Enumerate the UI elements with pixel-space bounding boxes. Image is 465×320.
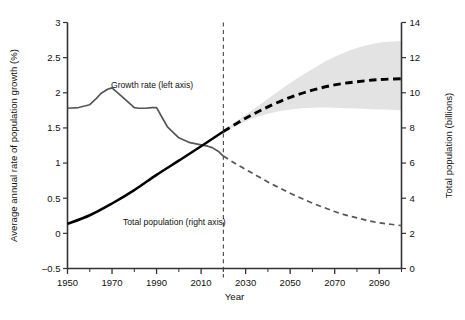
left-tick-label-1: 0 — [55, 228, 60, 239]
x-tick-label-4: 2030 — [235, 277, 256, 288]
right-tick-label-7: 14 — [410, 17, 421, 28]
uncertainty-band — [223, 41, 401, 132]
right-tick-label-0: 0 — [410, 263, 415, 274]
left-tick-label-3: 1 — [55, 157, 60, 168]
right-tick-label-3: 6 — [410, 157, 415, 168]
x-tick-label-2: 1990 — [146, 277, 167, 288]
right-tick-label-5: 10 — [410, 87, 421, 98]
growth-rate-label: Growth rate (left axis) — [111, 80, 193, 90]
x-tick-label-0: 1950 — [57, 277, 78, 288]
chart-canvas: –0.500.511.522.5302468101214195019701990… — [0, 0, 465, 320]
left-tick-label-6: 2.5 — [47, 52, 60, 63]
x-tick-label-6: 2070 — [324, 277, 345, 288]
population-growth-chart: –0.500.511.522.5302468101214195019701990… — [0, 0, 465, 320]
x-tick-label-1: 1970 — [101, 277, 122, 288]
total-population-label: Total population (right axis) — [123, 217, 226, 227]
left-tick-label-0: –0.5 — [42, 263, 61, 274]
right-axis-title: Total population (billions) — [443, 93, 454, 199]
right-tick-label-2: 4 — [410, 193, 415, 204]
right-tick-label-4: 8 — [410, 122, 415, 133]
right-tick-label-6: 12 — [410, 52, 421, 63]
series-growth-rate-projection — [223, 156, 401, 226]
x-tick-label-7: 2090 — [369, 277, 390, 288]
left-axis-title: Average annual rate of population growth… — [8, 49, 19, 242]
x-tick-label-3: 2010 — [191, 277, 212, 288]
left-tick-label-5: 2 — [55, 87, 60, 98]
x-axis-title: Year — [225, 291, 245, 302]
x-tick-label-5: 2050 — [280, 277, 301, 288]
left-tick-label-2: 0.5 — [47, 193, 60, 204]
left-tick-label-4: 1.5 — [47, 122, 60, 133]
right-tick-label-1: 2 — [410, 228, 415, 239]
left-tick-label-7: 3 — [55, 17, 60, 28]
